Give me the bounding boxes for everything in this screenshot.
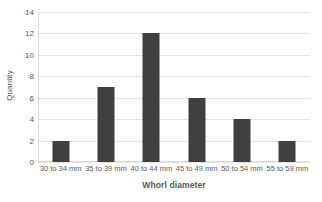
x-axis-tick-label: 40 to 44 mm [130,164,172,173]
bar-chart: Quantity 02468101214 30 to 34 mm35 to 39… [0,0,322,202]
y-axis-tick-label: 2 [30,136,34,145]
x-axis-tick-label: 50 to 54 mm [221,164,263,173]
y-axis-tick-label: 8 [30,72,34,81]
bar-slot [129,12,174,162]
x-axis-tick-label: 55 to 59 mm [266,164,308,173]
x-axis-tick-labels: 30 to 34 mm35 to 39 mm40 to 44 mm45 to 4… [38,164,310,178]
y-axis-tick-label: 12 [25,29,34,38]
y-axis-tick-labels: 02468101214 [16,12,36,162]
y-axis-title-label: Quantity [5,70,14,101]
y-axis-tick-label: 14 [25,8,34,17]
y-axis-tick-label: 0 [30,158,34,167]
y-axis-tick-label: 10 [25,50,34,59]
bar[interactable] [97,87,114,162]
x-axis-tick-label: 35 to 39 mm [85,164,127,173]
y-axis-title: Quantity [2,0,16,170]
x-axis-tick-label: 45 to 49 mm [176,164,218,173]
gridline [38,162,310,163]
bar-series [38,12,310,162]
x-axis-tick-label: 30 to 34 mm [40,164,82,173]
y-axis-tick-label: 4 [30,115,34,124]
bar[interactable] [279,141,296,162]
bar[interactable] [188,98,205,162]
bar[interactable] [52,141,69,162]
x-axis-title: Whorl diameter [38,180,310,190]
bar-slot [83,12,128,162]
bar-slot [174,12,219,162]
y-axis-tick-label: 6 [30,93,34,102]
bar-slot [265,12,310,162]
bar-slot [219,12,264,162]
plot-area [38,12,310,162]
bar[interactable] [143,33,160,162]
bar[interactable] [233,119,250,162]
bar-slot [38,12,83,162]
